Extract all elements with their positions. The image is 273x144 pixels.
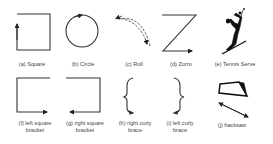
roll-gesture-icon [116, 16, 150, 46]
label-right-square-bracket: (g) right square bracket [61, 120, 109, 134]
label-left-square-bracket: (f) left square bracket [12, 120, 58, 134]
label-zorro: (d) Zorro [164, 61, 198, 68]
label-square: (a) Square [12, 61, 52, 68]
right-curly-brace-gesture-icon [124, 78, 133, 114]
circle-gesture-icon [66, 15, 98, 47]
label-left-curly-brace-line2: brace [160, 127, 200, 134]
label-left-curly-brace: (i) left curly brace [160, 120, 200, 134]
label-right-square-bracket-line1: (g) right square [61, 120, 109, 127]
left-square-bracket-gesture-icon [17, 78, 50, 112]
label-right-square-bracket-line2: bracket [61, 127, 109, 134]
label-right-curly-brace: (h) right curly brace [113, 120, 157, 134]
label-circle: (b) Circle [65, 61, 101, 68]
label-left-square-bracket-line2: bracket [12, 127, 58, 134]
label-right-curly-brace-line2: brace [113, 127, 157, 134]
label-right-curly-brace-line1: (h) right curly [113, 120, 157, 127]
left-curly-brace-gesture-icon [174, 78, 184, 114]
hacksaw-gesture-icon [219, 82, 248, 117]
label-left-square-bracket-line1: (f) left square [12, 120, 58, 127]
label-left-curly-brace-line1: (i) left curly [160, 120, 200, 127]
label-tennis-serve: (e) Tennis Serve [208, 61, 262, 68]
tennis-serve-gesture-icon [222, 8, 246, 54]
right-square-bracket-gesture-icon [66, 78, 100, 112]
label-hacksaw: (j) hacksaw [212, 122, 252, 129]
zorro-gesture-icon [162, 15, 196, 51]
square-gesture-icon [17, 14, 50, 50]
label-roll: (c) Roll [118, 61, 150, 68]
